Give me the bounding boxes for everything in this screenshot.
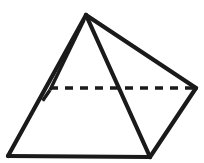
pyramid-svg xyxy=(0,0,204,163)
edge-base-front-left-to-front-right xyxy=(8,156,150,157)
pyramid-diagram xyxy=(0,0,204,163)
